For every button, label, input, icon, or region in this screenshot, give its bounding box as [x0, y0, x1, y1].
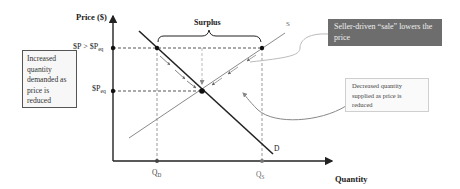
demand-label: D: [274, 144, 279, 153]
qs-connector: [243, 93, 346, 120]
surplus-label: Surplus: [194, 18, 221, 27]
demand-point-high: [155, 46, 159, 50]
surplus-brace: [158, 30, 261, 42]
y-axis-label: Price ($): [76, 12, 107, 22]
decreased-qs-callout: Decreased quantity supplied as price is …: [345, 78, 429, 112]
equilibrium-point: [199, 88, 205, 94]
supply-label: S: [286, 20, 290, 28]
qd-tick: [155, 159, 159, 163]
demand-movement-arrows: [160, 56, 196, 88]
supply-point-high: [260, 46, 264, 50]
p-high-tick: [111, 46, 115, 50]
qs-sub: S: [261, 174, 264, 180]
seller-sale-callout: Seller-driven “sale” lowers the price: [328, 19, 442, 46]
guide-lines: [113, 48, 262, 161]
qd-label: QD: [152, 168, 161, 178]
p-eq-label: $Peq: [92, 84, 106, 94]
demand-curve: [139, 31, 273, 154]
p-high-sub: eq: [98, 46, 103, 52]
qs-label: QS: [256, 170, 264, 180]
p-eq-tick: [111, 89, 115, 93]
x-axis-label: Quantity: [335, 174, 368, 184]
p-high-label: $P > $Peq: [73, 42, 103, 52]
qd-sub: D: [157, 172, 161, 178]
supply-movement-arrows: [212, 55, 256, 85]
qs-tick: [260, 159, 264, 163]
increased-qd-callout: Increased quantity demanded as price is …: [22, 50, 77, 108]
points: [111, 46, 264, 163]
p-eq-sub: eq: [100, 88, 105, 94]
